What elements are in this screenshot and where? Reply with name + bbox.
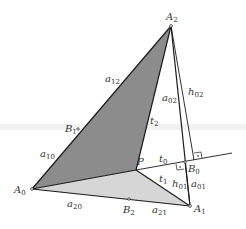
point-A1: [189, 205, 192, 208]
label-P: P: [136, 156, 144, 167]
label-a21: a21: [152, 204, 167, 217]
point-B2: [128, 198, 130, 200]
label-a02: a02: [162, 92, 177, 105]
label-t1: t1: [159, 173, 168, 186]
label-a10: a10: [40, 148, 55, 161]
label-t0: t0: [159, 153, 168, 166]
label-A0: A0: [13, 184, 26, 197]
tetrahedron-diagram: A2 A0 A1 P B0 B1 B2 a12 a10 a20 a21 a02 …: [0, 0, 246, 229]
point-B1: [77, 128, 79, 130]
label-h02: h02: [188, 86, 203, 99]
label-B2: B2: [122, 204, 135, 217]
point-B0: [184, 161, 186, 163]
label-A1: A1: [193, 203, 206, 216]
point-A0: [31, 188, 34, 191]
point-A2: [170, 25, 173, 28]
label-a01: a01: [191, 178, 206, 191]
label-a20: a20: [67, 198, 82, 211]
label-h01: h01: [172, 178, 187, 191]
label-A2: A2: [165, 11, 178, 24]
label-a12: a12: [105, 73, 120, 86]
label-B0: B0: [187, 163, 200, 176]
